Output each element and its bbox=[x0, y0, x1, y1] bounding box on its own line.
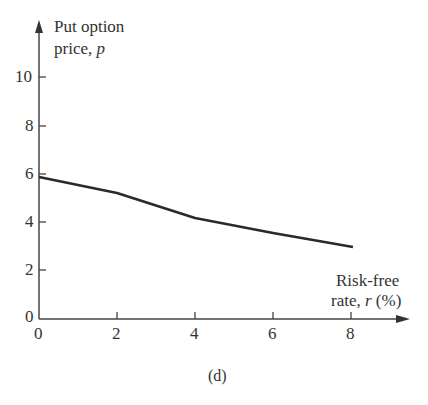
y-tick-label-0: 0 bbox=[25, 308, 34, 325]
y-ticks bbox=[39, 77, 46, 270]
y-tick-label-10: 10 bbox=[15, 68, 32, 85]
y-tick-label-6: 6 bbox=[25, 165, 34, 182]
x-axis-label-line1: Risk-free bbox=[336, 272, 399, 289]
x-tick-label-4: 4 bbox=[190, 325, 199, 342]
x-axis-arrow-icon bbox=[396, 315, 410, 323]
x-axis-label-suffix: (%) bbox=[372, 291, 402, 310]
y-axis-label-line2: price, p bbox=[54, 40, 105, 57]
x-axis-label-var: r bbox=[365, 291, 372, 310]
y-axis-label-var: p bbox=[96, 39, 105, 58]
panel-label: (d) bbox=[208, 368, 227, 384]
y-tick-label-4: 4 bbox=[25, 213, 34, 230]
chart-canvas bbox=[0, 0, 428, 405]
x-axis-label-prefix: rate, bbox=[331, 291, 365, 310]
x-axis-label-line2: rate, r (%) bbox=[331, 292, 401, 309]
x-ticks bbox=[117, 312, 351, 319]
x-tick-label-0: 0 bbox=[34, 325, 43, 342]
x-tick-label-2: 2 bbox=[112, 325, 121, 342]
y-axis-label-prefix: price, bbox=[54, 39, 96, 58]
put-price-line bbox=[39, 177, 353, 247]
y-tick-label-8: 8 bbox=[25, 117, 34, 134]
y-tick-label-2: 2 bbox=[25, 261, 34, 278]
y-axis-label-line1: Put option bbox=[54, 18, 124, 35]
y-axis-arrow-icon bbox=[35, 20, 43, 33]
x-tick-label-6: 6 bbox=[268, 325, 277, 342]
x-tick-label-8: 8 bbox=[346, 325, 355, 342]
